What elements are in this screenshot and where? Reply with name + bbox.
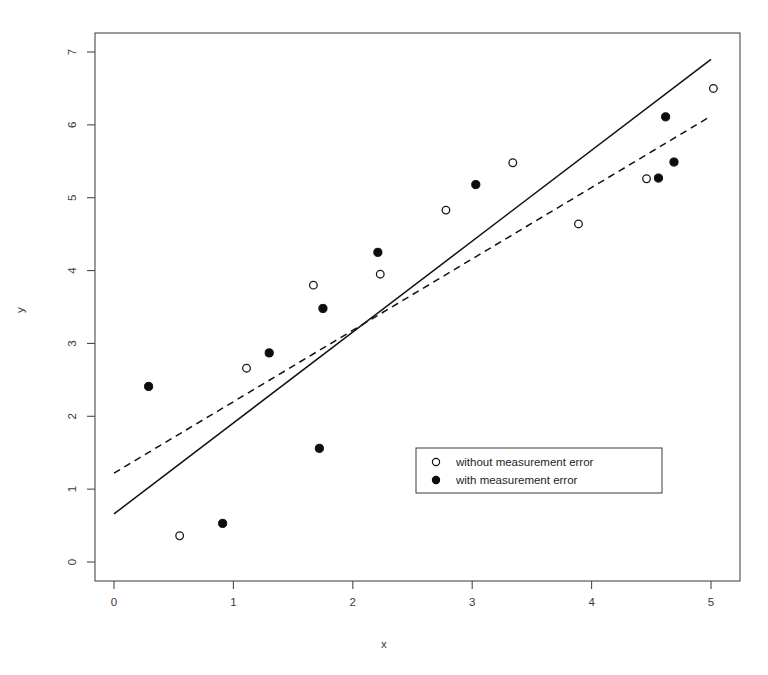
data-point-open bbox=[575, 220, 583, 228]
y-axis-title: y bbox=[14, 280, 26, 340]
data-point-open bbox=[643, 175, 651, 183]
scatter-plot-figure: 012345 01234567 without measurement erro… bbox=[0, 0, 768, 675]
x-tick-label: 5 bbox=[708, 596, 714, 608]
plot-canvas: 012345 01234567 without measurement erro… bbox=[0, 0, 768, 675]
data-point-filled bbox=[219, 519, 227, 527]
data-point-filled bbox=[145, 382, 153, 390]
x-tick-label: 2 bbox=[350, 596, 356, 608]
y-axis-ticks: 01234567 bbox=[66, 49, 95, 565]
x-tick-label: 4 bbox=[588, 596, 595, 608]
data-point-open bbox=[509, 159, 517, 167]
x-tick-label: 3 bbox=[469, 596, 475, 608]
solid-regression-line bbox=[114, 59, 711, 514]
data-point-filled bbox=[319, 304, 327, 312]
data-point-open bbox=[376, 270, 384, 278]
x-axis-title: x bbox=[0, 638, 768, 650]
data-point-open bbox=[310, 281, 318, 289]
legend-filled-circle-icon bbox=[432, 476, 439, 483]
data-point-filled bbox=[670, 158, 678, 166]
x-tick-label: 0 bbox=[111, 596, 117, 608]
y-tick-label: 0 bbox=[66, 559, 78, 565]
legend-box bbox=[416, 448, 662, 493]
y-tick-label: 2 bbox=[66, 413, 78, 419]
plot-frame bbox=[95, 33, 740, 581]
y-tick-label: 6 bbox=[66, 122, 78, 128]
data-point-filled bbox=[654, 174, 662, 182]
data-point-filled bbox=[662, 113, 670, 121]
legend[interactable]: without measurement error with measureme… bbox=[416, 448, 662, 493]
data-point-filled bbox=[265, 349, 273, 357]
data-point-open bbox=[243, 364, 251, 372]
data-point-filled bbox=[315, 444, 323, 452]
data-point-filled bbox=[374, 248, 382, 256]
legend-label-with-error: with measurement error bbox=[455, 474, 578, 486]
data-point-open bbox=[442, 206, 450, 214]
y-tick-label: 5 bbox=[66, 195, 78, 201]
y-tick-label: 1 bbox=[66, 486, 78, 492]
data-point-open bbox=[176, 532, 184, 540]
data-point-filled bbox=[472, 181, 480, 189]
regression-lines bbox=[114, 59, 711, 514]
y-tick-label: 7 bbox=[66, 49, 78, 55]
x-axis-ticks: 012345 bbox=[111, 581, 714, 608]
legend-label-without-error: without measurement error bbox=[455, 456, 594, 468]
x-tick-label: 1 bbox=[230, 596, 236, 608]
y-tick-label: 4 bbox=[66, 267, 78, 274]
y-tick-label: 3 bbox=[66, 340, 78, 346]
dashed-regression-line bbox=[114, 116, 711, 473]
data-point-open bbox=[710, 85, 718, 93]
